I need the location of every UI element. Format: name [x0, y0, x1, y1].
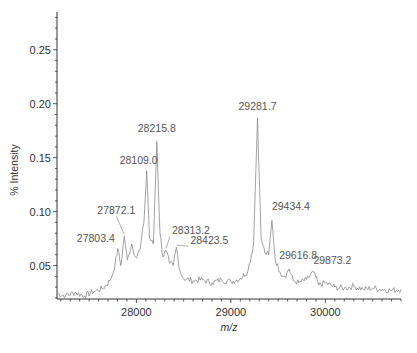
y-tick-label: 0.15: [30, 152, 51, 164]
peak-label: 27872.1: [97, 204, 135, 216]
peak-label: 28423.5: [190, 234, 228, 246]
y-axis: 0.050.100.150.200.25: [30, 12, 57, 299]
peak-leader-line: [166, 236, 170, 248]
x-axis: 280002900030000: [57, 299, 401, 318]
y-tick-label: 0.05: [30, 260, 51, 272]
y-tick-label: 0.20: [30, 98, 51, 110]
y-tick-label: 0.10: [30, 206, 51, 218]
peak-label: 29434.4: [272, 200, 310, 212]
x-tick-label: 29000: [216, 306, 247, 318]
peak-label: 29281.7: [239, 100, 277, 112]
peak-label: 27803.4: [77, 232, 115, 244]
peak-leader-line: [176, 245, 188, 246]
peak-label: 29616.8: [279, 249, 317, 261]
mass-spectrum-chart: 0.050.100.150.200.25 280002900030000 278…: [0, 0, 417, 353]
peak-leader-line: [116, 216, 124, 234]
x-tick-label: 30000: [310, 306, 341, 318]
peak-label: 29873.2: [313, 254, 351, 266]
peak-label: 28215.8: [138, 122, 176, 134]
x-tick-label: 28000: [121, 306, 152, 318]
y-axis-title: % Intensity: [8, 144, 20, 196]
peak-label: 28109.0: [120, 154, 158, 166]
y-tick-label: 0.25: [30, 44, 51, 56]
x-axis-title: m/z: [221, 321, 239, 333]
peak-labels: 27803.427872.128109.028215.828313.228423…: [77, 100, 352, 266]
